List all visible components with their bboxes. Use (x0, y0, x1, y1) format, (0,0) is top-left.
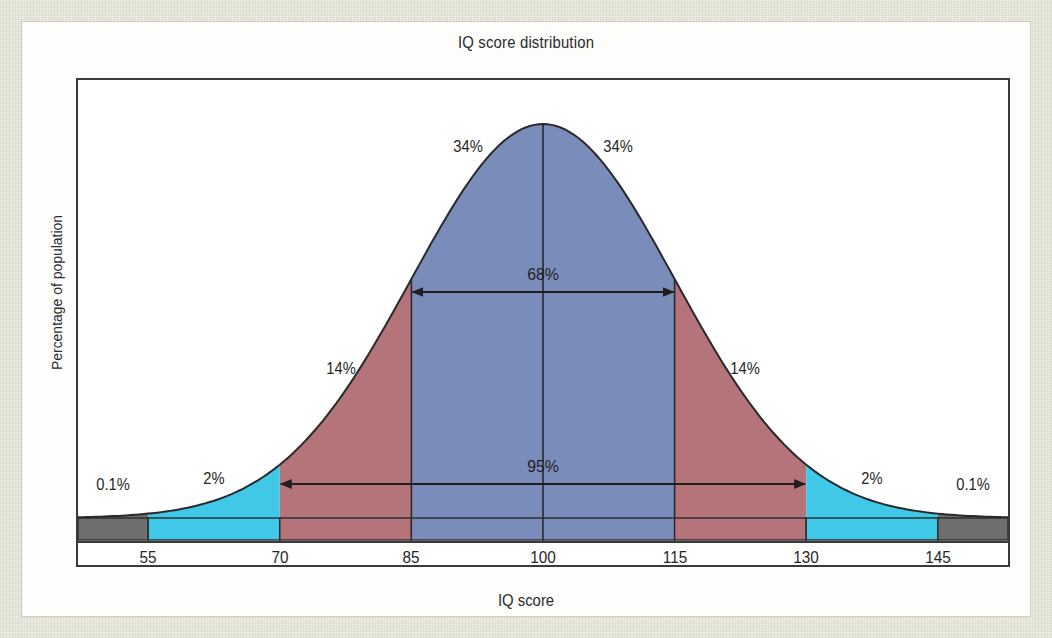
x-axis-label: IQ score (57, 592, 994, 610)
baseline-band-high-14 (675, 518, 807, 540)
distribution-plot-svg: 68%95% (78, 80, 1008, 565)
x-tick-145: 145 (925, 548, 951, 568)
baseline-band-mid-34-left (411, 518, 543, 540)
x-tick-55: 55 (140, 548, 157, 568)
x-tick-100: 100 (530, 548, 556, 568)
curve-band-high-2 (806, 80, 938, 518)
pct-14-left: 14% (326, 360, 355, 378)
pct-2-right: 2% (861, 470, 882, 488)
plot-area: 68%95% 557085100115130145 0.1%2%14%34%34… (76, 78, 1010, 567)
pct-14-right: 14% (730, 360, 759, 378)
baseline-band-low-extreme (78, 518, 148, 540)
pct-0-1-left: 0.1% (96, 476, 130, 494)
curve-band-low-14 (280, 80, 412, 518)
page-title: IQ score distribution (57, 34, 994, 52)
baseline-band-bar (78, 518, 1008, 540)
x-tick-130: 130 (793, 548, 819, 568)
pct-34-right: 34% (603, 138, 632, 156)
x-tick-85: 85 (403, 548, 420, 568)
curve-band-high-14 (675, 80, 807, 518)
curve-band-high-extreme (938, 80, 1008, 518)
y-axis-label: Percentage of population (48, 181, 65, 404)
x-tick-115: 115 (662, 548, 686, 568)
label-span-68: 68% (527, 264, 559, 283)
pct-34-left: 34% (454, 138, 483, 156)
x-tick-70: 70 (271, 548, 288, 568)
baseline-band-low-2 (148, 518, 280, 540)
figure-page: IQ score distribution Percentage of popu… (0, 0, 1052, 638)
pct-0-1-right: 0.1% (956, 476, 990, 494)
iq-distribution-figure: IQ score distribution Percentage of popu… (22, 22, 1030, 616)
pct-2-left: 2% (203, 470, 224, 488)
baseline-band-high-2 (806, 518, 938, 540)
figure-card: IQ score distribution Percentage of popu… (22, 22, 1030, 616)
curve-band-low-extreme (78, 80, 148, 518)
baseline-band-mid-34-right (543, 518, 675, 540)
label-span-95: 95% (527, 456, 559, 475)
baseline-band-low-14 (280, 518, 412, 540)
curve-band-low-2 (148, 80, 280, 518)
baseline-band-high-extreme (938, 518, 1008, 540)
